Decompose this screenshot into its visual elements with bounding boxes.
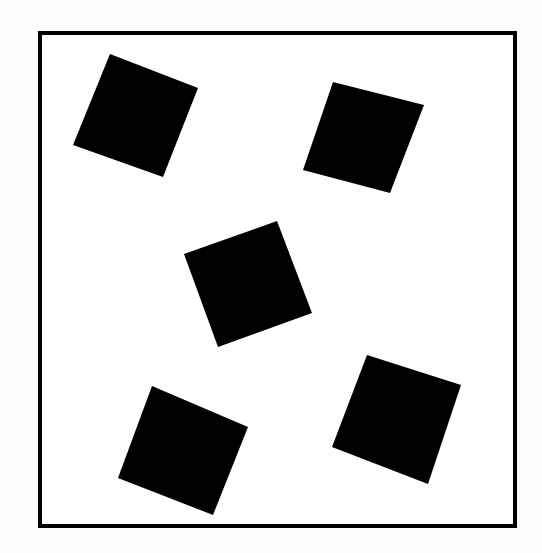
figure-canvas: [0, 0, 542, 553]
figure-container: Five rotated black squares inside a squa…: [0, 0, 542, 553]
